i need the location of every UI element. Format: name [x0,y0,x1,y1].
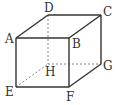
vertex-label-e: E [5,85,14,99]
vertex-label-f: F [66,90,74,104]
vertex-label-g: G [103,59,113,73]
edge-EH [16,64,48,87]
visible-edges [16,15,101,87]
cube-diagram: D C A B H G E F [0,0,117,105]
vertex-label-b: B [72,37,81,51]
vertex-label-h: H [45,65,55,79]
hidden-edges [16,15,101,87]
edge-DA [16,15,48,38]
edge-BC [69,15,101,38]
vertex-label-a: A [4,32,14,46]
vertex-label-c: C [103,5,112,19]
vertex-label-d: D [44,1,54,15]
edge-FG [69,64,101,87]
